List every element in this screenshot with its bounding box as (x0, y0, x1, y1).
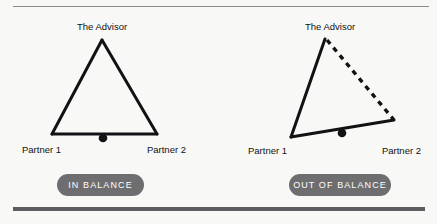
out-of-balance-triangle (291, 39, 394, 137)
in-balance-right-edge (102, 40, 157, 134)
diagram-canvas: The Advisor Partner 1 Partner 2 The Advi… (0, 0, 437, 224)
out-of-balance-partner1-label: Partner 1 (248, 146, 287, 156)
out-of-balance-partner2-label: Partner 2 (382, 146, 421, 156)
out-of-balance-fulcrum-dot (338, 129, 347, 138)
out-of-balance-apex-label: The Advisor (305, 22, 355, 32)
out-of-balance-left-edge (291, 39, 325, 137)
out-of-balance-status-button[interactable]: OUT OF BALANCE (289, 174, 391, 196)
in-balance-fulcrum-dot (99, 134, 108, 143)
in-balance-triangle (52, 40, 157, 142)
out-of-balance-right-edge-dashed (327, 40, 394, 120)
in-balance-apex-label: The Advisor (77, 22, 127, 32)
in-balance-left-edge (52, 40, 102, 134)
in-balance-partner2-label: Partner 2 (147, 145, 186, 155)
in-balance-partner1-label: Partner 1 (22, 145, 61, 155)
in-balance-status-button[interactable]: IN BALANCE (57, 174, 144, 196)
bottom-divider-rule (13, 207, 425, 211)
